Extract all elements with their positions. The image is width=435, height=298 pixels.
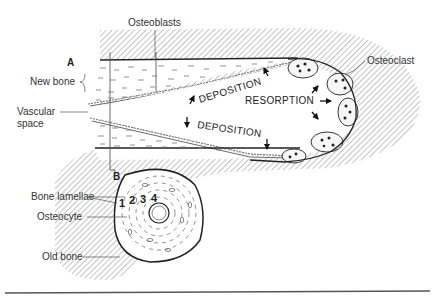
label-new-bone: New bone (30, 76, 75, 87)
panel-label-a: A (67, 57, 74, 68)
lamella-number-3: 3 (140, 193, 146, 205)
label-vascular-space-line2: space (17, 118, 44, 129)
label-vascular-space-line1: Vascular (17, 106, 56, 117)
resorption-label: RESORPTION (245, 95, 314, 106)
lamella-number-2: 2 (129, 194, 135, 206)
bottom-rule (5, 291, 430, 293)
osteon (114, 169, 203, 262)
label-osteoclast: Osteoclast (367, 55, 414, 66)
panel-label-b: B (113, 171, 120, 182)
leader-new-bone (80, 74, 85, 92)
lamella-number-1: 1 (119, 197, 125, 209)
label-bone-lamellae: Bone lamellae (31, 191, 95, 202)
lamella-number-4: 4 (151, 192, 158, 204)
label-osteoblasts: Osteoblasts (128, 17, 181, 28)
label-old-bone: Old bone (42, 251, 83, 262)
label-osteocyte: Osteocyte (37, 211, 82, 222)
bone-remodeling-diagram: DEPOSITION DEPOSITION RESORPTION 1 2 3 4 (0, 0, 435, 298)
